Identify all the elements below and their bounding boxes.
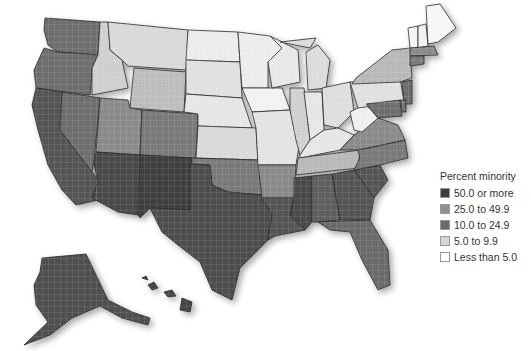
county-grid-or [34, 48, 98, 95]
legend-label: 5.0 to 9.9 [454, 235, 498, 247]
legend-item-50-plus: 50.0 or more [440, 186, 531, 200]
county-grid-co [140, 110, 198, 158]
county-grid-wy [130, 68, 186, 112]
legend-swatch [440, 188, 450, 198]
county-grid-me [426, 4, 456, 44]
county-grid-az [92, 152, 140, 215]
county-grid-sd [186, 60, 242, 98]
legend-item-less-than-5: Less than 5.0 [440, 250, 531, 264]
legend-swatch [440, 204, 450, 214]
county-grid-nd [186, 30, 240, 62]
county-grid-fl [318, 220, 390, 290]
county-grid-ia [242, 88, 290, 112]
legend-item-10-to-24: 10.0 to 24.9 [440, 218, 531, 232]
legend-swatch [440, 236, 450, 246]
legend-title: Percent minority [440, 170, 531, 182]
county-grid-ks [196, 126, 258, 160]
legend-label: 50.0 or more [454, 187, 514, 199]
county-grid-ny [352, 48, 412, 84]
legend-label: 10.0 to 24.9 [454, 219, 509, 231]
county-grid-wa [44, 18, 100, 55]
county-grid-ak [24, 254, 150, 345]
county-grid-oh [322, 82, 354, 128]
county-grid-nm [138, 155, 192, 218]
legend-label: Less than 5.0 [454, 251, 517, 263]
county-grid-hi [142, 276, 192, 312]
legend-item-25-to-49: 25.0 to 49.9 [440, 202, 531, 216]
county-grid-ar [258, 165, 296, 198]
legend-item-5-to-9: 5.0 to 9.9 [440, 234, 531, 248]
legend-label: 25.0 to 49.9 [454, 203, 509, 215]
legend: Percent minority 50.0 or more 25.0 to 49… [440, 170, 531, 266]
legend-swatch [440, 220, 450, 230]
legend-swatch [440, 252, 450, 262]
